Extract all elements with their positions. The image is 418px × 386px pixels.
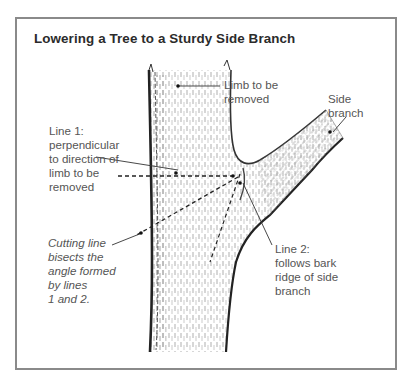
label-limb-to-be-removed: Limb to be removed <box>224 78 278 106</box>
label-line-1: Line 1: perpendicular to direction of li… <box>49 124 119 194</box>
label-side-branch: Side branch <box>328 92 363 120</box>
label-line-2: Line 2: follows bark ridge of side branc… <box>275 242 338 298</box>
label-cutting-line: Cutting line bisects the angle formed by… <box>48 236 116 306</box>
